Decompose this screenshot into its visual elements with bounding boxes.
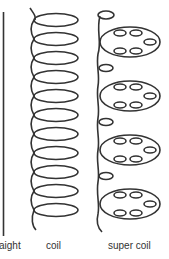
label-super-coil: super coil: [108, 240, 151, 251]
super-coil: [97, 11, 160, 232]
label-straight: aight: [0, 240, 21, 251]
coil-diagram: [0, 0, 169, 259]
coil-helix: [30, 8, 78, 230]
label-coil: coil: [46, 240, 61, 251]
